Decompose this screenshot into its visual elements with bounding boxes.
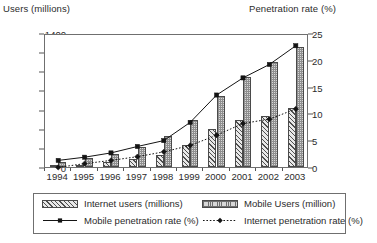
legend-item: Internet users (millions) (42, 198, 183, 209)
x-axis-tick-label: 1994 (47, 171, 68, 182)
marker-mobile-penetration (162, 138, 166, 142)
legend-swatch-mobile-users (202, 200, 238, 208)
x-axis-tick-label: 2001 (231, 171, 252, 182)
legend-label: Mobile penetration rate (%) (84, 215, 199, 226)
x-axis-tick-label: 2000 (205, 171, 226, 182)
lines-layer (45, 35, 309, 169)
marker-mobile-penetration (241, 76, 245, 80)
y2-axis-tick-label: 15 (312, 82, 323, 93)
line-internet-penetration (58, 109, 296, 167)
marker-internet-penetration (267, 116, 272, 121)
marker-mobile-penetration (267, 62, 271, 66)
x-axis-tick-label: 1997 (126, 171, 147, 182)
marker-internet-penetration (161, 149, 166, 154)
marker-internet-penetration (240, 121, 245, 126)
marker-internet-penetration (135, 154, 140, 159)
marker-mobile-penetration (135, 144, 139, 148)
legend-label: Mobile Users (million) (244, 198, 335, 209)
line-mobile-penetration (58, 46, 296, 161)
marker-mobile-penetration (294, 44, 298, 48)
marker-internet-penetration (214, 133, 219, 138)
legend-label: Internet penetration rate (%) (244, 215, 363, 226)
legend-swatch-mobile-penetration (42, 216, 78, 225)
marker-mobile-penetration (188, 120, 192, 124)
x-axis-tick-label: 1999 (179, 171, 200, 182)
legend-swatch-internet-users (42, 200, 78, 208)
y2-axis-tick-label: 20 (312, 55, 323, 66)
x-axis-tick-label: 1995 (73, 171, 94, 182)
marker-mobile-penetration (109, 151, 113, 155)
marker-internet-penetration (293, 106, 298, 111)
legend-item: Mobile Users (million) (202, 198, 335, 209)
marker-mobile-penetration (83, 155, 87, 159)
chart-figure: Users (millions) Penetration rate (%) 02… (0, 0, 377, 243)
y2-axis-tick-label: 25 (312, 29, 323, 40)
chart-legend: Internet users (millions)Mobile Users (m… (33, 193, 346, 234)
marker-mobile-penetration (56, 158, 60, 162)
y2-axis-tick-label: 10 (312, 109, 323, 120)
right-axis-title: Penetration rate (%) (249, 3, 336, 14)
marker-internet-penetration (82, 161, 87, 166)
marker-mobile-penetration (215, 93, 219, 97)
plot-area (44, 34, 308, 168)
legend-label: Internet users (millions) (84, 198, 183, 209)
marker-internet-penetration (108, 158, 113, 163)
legend-item: Internet penetration rate (%) (202, 215, 363, 226)
legend-item: Mobile penetration rate (%) (42, 215, 199, 226)
x-axis-tick-label: 2003 (284, 171, 305, 182)
x-axis-tick-label: 2002 (258, 171, 279, 182)
left-axis-title: Users (millions) (3, 3, 70, 14)
x-axis-tick-label: 1996 (99, 171, 120, 182)
x-axis-tick-label: 1998 (152, 171, 173, 182)
legend-swatch-internet-penetration (202, 216, 238, 225)
marker-internet-penetration (188, 143, 193, 148)
plot-inner (45, 35, 307, 167)
